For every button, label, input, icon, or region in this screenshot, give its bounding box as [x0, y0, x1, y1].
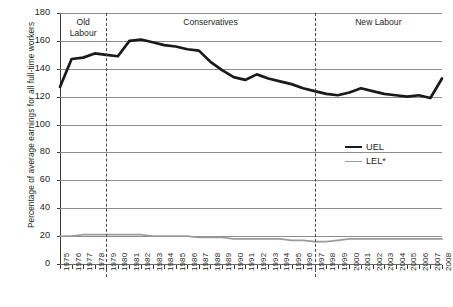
x-tick-mark: [303, 265, 304, 269]
x-tick-label: 2005: [410, 253, 418, 271]
x-tick-label: 1983: [156, 253, 164, 271]
x-tick-label: 2001: [364, 253, 372, 271]
plot-area: 020406080100120140160180 Old LabourConse…: [60, 13, 442, 264]
x-tick-label: 1998: [329, 253, 337, 271]
x-tick-mark: [153, 265, 154, 269]
x-tick-mark: [234, 265, 235, 269]
x-tick-mark: [83, 265, 84, 269]
x-tick-label: 1992: [260, 253, 268, 271]
x-tick-mark: [106, 265, 107, 269]
x-tick-mark: [315, 265, 316, 269]
x-tick-label: 1985: [179, 253, 187, 271]
y-tick-label: 100: [10, 120, 50, 129]
x-tick-label: 1997: [318, 253, 326, 271]
x-tick-label: 2002: [376, 253, 384, 271]
y-tick-label: 80: [10, 147, 50, 156]
legend-label: UEL: [366, 142, 384, 152]
x-tick-label: 2004: [399, 253, 407, 271]
x-tick-label: 1988: [214, 253, 222, 271]
y-tick-label: 140: [10, 64, 50, 73]
x-tick-label: 2000: [353, 253, 361, 271]
x-tick-label: 2003: [387, 253, 395, 271]
y-tick-label: 20: [10, 231, 50, 240]
x-tick-label: 1981: [133, 253, 141, 271]
x-tick-mark: [129, 265, 130, 269]
legend-label: LEL*: [366, 156, 386, 166]
x-tick-label: 1996: [306, 253, 314, 271]
era-label: Conservatives: [170, 17, 250, 28]
x-tick-mark: [396, 265, 397, 269]
chart-legend: UEL LEL*: [345, 140, 386, 168]
legend-item-lel: LEL*: [345, 154, 386, 168]
x-tick-mark: [361, 265, 362, 269]
x-tick-label: 1975: [63, 253, 71, 271]
x-tick-mark: [210, 265, 211, 269]
x-tick-label: 1986: [191, 253, 199, 271]
y-tick-label: 60: [10, 175, 50, 184]
x-tick-label: 1984: [167, 253, 175, 271]
line-swatch-thin-gray-icon: [345, 161, 362, 162]
x-tick-mark: [384, 265, 385, 269]
series-lines: [60, 13, 442, 264]
x-tick-mark: [95, 265, 96, 269]
x-tick-label: 1991: [248, 253, 256, 271]
x-tick-mark: [268, 265, 269, 269]
x-tick-mark: [349, 265, 350, 269]
line-swatch-thick-dark-icon: [345, 146, 362, 148]
x-tick-label: 2008: [445, 253, 453, 271]
x-tick-label: 1982: [144, 253, 152, 271]
x-tick-mark: [60, 265, 61, 269]
x-tick-label: 1987: [202, 253, 210, 271]
x-tick-label: 2007: [434, 253, 442, 271]
x-tick-mark: [419, 265, 420, 269]
x-tick-mark: [118, 265, 119, 269]
x-tick-label: 1979: [110, 253, 118, 271]
y-tick-label: 180: [10, 8, 50, 17]
x-tick-mark: [72, 265, 73, 269]
x-tick-mark: [141, 265, 142, 269]
x-axis-ticks-group: 1975197619771978197919801981198219831984…: [60, 265, 442, 307]
x-tick-label: 1994: [283, 253, 291, 271]
y-tick-label: 40: [10, 203, 50, 212]
x-tick-mark: [338, 265, 339, 269]
y-tick-label: 0: [10, 259, 50, 268]
era-label: New Labour: [338, 17, 418, 28]
x-tick-mark: [280, 265, 281, 269]
y-tick-label: 120: [10, 92, 50, 101]
era-divider-line: [315, 13, 316, 277]
x-tick-mark: [176, 265, 177, 269]
x-tick-label: 1978: [98, 253, 106, 271]
x-tick-label: 1990: [237, 253, 245, 271]
x-tick-label: 1977: [86, 253, 94, 271]
x-tick-label: 1999: [341, 253, 349, 271]
x-tick-label: 1989: [225, 253, 233, 271]
x-tick-label: 2006: [422, 253, 430, 271]
x-tick-label: 1995: [295, 253, 303, 271]
x-tick-mark: [292, 265, 293, 269]
x-tick-label: 1980: [121, 253, 129, 271]
x-tick-mark: [373, 265, 374, 269]
line-uel: [60, 39, 442, 98]
legend-item-uel: UEL: [345, 140, 386, 154]
x-tick-mark: [257, 265, 258, 269]
x-tick-mark: [199, 265, 200, 269]
era-divider-line: [106, 13, 107, 277]
era-label: Old Labour: [43, 17, 123, 38]
line-lel: [60, 235, 442, 242]
x-tick-mark: [187, 265, 188, 269]
x-tick-mark: [222, 265, 223, 269]
x-tick-label: 1976: [75, 253, 83, 271]
x-tick-mark: [430, 265, 431, 269]
x-tick-label: 1993: [272, 253, 280, 271]
x-tick-mark: [442, 265, 443, 269]
